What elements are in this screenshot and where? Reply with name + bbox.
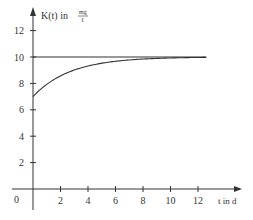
y-axis-label-main: K(t) in bbox=[41, 10, 68, 22]
axes bbox=[12, 7, 242, 210]
chart: 24681012 24681012 0 t in d K(t) in mg ℓ bbox=[0, 0, 253, 220]
x-tick-label: 4 bbox=[86, 195, 91, 206]
y-tick-label: 2 bbox=[19, 157, 24, 168]
y-tick-label: 8 bbox=[19, 78, 24, 89]
x-tick-label: 12 bbox=[193, 195, 203, 206]
x-tick-label: 6 bbox=[113, 195, 118, 206]
origin-label: 0 bbox=[14, 194, 19, 205]
x-tick-label: 8 bbox=[141, 195, 146, 206]
y-axis-label-unit-numerator: mg bbox=[79, 9, 87, 15]
y-axis-arrow-icon bbox=[30, 7, 36, 16]
x-axis-arrow-icon bbox=[234, 186, 242, 192]
x-tick-label: 2 bbox=[58, 195, 63, 206]
x-tick-label: 10 bbox=[166, 195, 176, 206]
series-k-t--line bbox=[33, 57, 206, 96]
y-axis-label: K(t) in mg ℓ bbox=[41, 9, 88, 23]
y-axis-label-unit-denominator: ℓ bbox=[81, 17, 84, 23]
x-axis-label: t in d bbox=[218, 196, 237, 206]
series bbox=[33, 57, 206, 97]
y-tick-label: 10 bbox=[14, 52, 24, 63]
y-tick-label: 4 bbox=[19, 131, 24, 142]
y-tick-label: 6 bbox=[19, 104, 24, 115]
y-tick-label: 12 bbox=[14, 25, 24, 36]
